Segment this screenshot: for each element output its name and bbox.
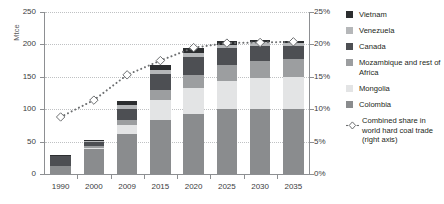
legend-item-label: Vietnam [359,10,387,20]
bar-segment [150,70,171,74]
bar-segment [84,146,105,148]
x-tick [77,175,78,179]
x-tick [177,175,178,179]
diamond-marker-icon [346,116,359,125]
y2-axis-line [309,12,310,175]
bar-segment [283,46,304,59]
legend-item-label: Mozambique and rest of Africa [359,58,442,77]
legend-item-label: Mongolia [359,84,390,94]
legend-item-combined-share[interactable]: Combined share in world hard coal trade … [346,116,442,145]
bar-segment [150,90,171,99]
bar-segment [84,140,105,141]
y-axis-line [44,12,45,175]
y-tick-label: 100 [6,104,36,113]
bar-segment [117,120,138,125]
bar-stack[interactable] [250,40,271,174]
legend-item[interactable]: Mongolia [346,84,442,94]
bar-segment [50,155,71,156]
bar-segment [250,61,271,78]
bar-segment [217,48,238,65]
bar-segment [217,65,238,81]
bar-segment [283,41,304,43]
bar-segment [50,155,71,156]
bar-segment [150,65,171,70]
y2-tick-label: 15% [314,72,346,81]
x-tick [111,175,112,179]
bar-segment [250,78,271,109]
bar-segment [183,57,204,75]
bar-segment [117,134,138,174]
x-tick [144,175,145,179]
bar-segment [84,142,105,146]
bar-segment [183,88,204,114]
bar-stack[interactable] [150,65,171,175]
bar-segment [183,53,204,57]
legend-item[interactable]: Colombia [346,100,442,110]
line-marker [90,96,98,104]
legend-swatch-icon [346,43,353,50]
y-tick-label: 150 [6,72,36,81]
y2-tick-label: 10% [314,104,346,113]
bar-segment [84,148,105,149]
bar-segment [183,114,204,174]
bar-stack[interactable] [283,41,304,174]
legend-swatch-icon [346,85,353,92]
y-tick [40,44,44,45]
bar-segment [117,109,138,121]
bar-segment [117,101,138,105]
legend-item-label: Venezuela [359,26,394,36]
legend: VietnamVenezuelaCanadaMozambique and res… [346,10,442,151]
legend-swatch-icon [346,11,353,18]
line-marker [56,113,64,121]
bar-segment [250,109,271,174]
bar-stack[interactable] [84,140,105,174]
bar-segment [283,109,304,174]
bar-segment [183,75,204,88]
legend-item[interactable]: Vietnam [346,10,442,20]
bar-segment [283,59,304,77]
bar-segment [117,125,138,135]
legend-item[interactable]: Canada [346,42,442,52]
bar-segment [283,77,304,109]
x-tick [210,175,211,179]
bar-segment [117,105,138,108]
bar-segment [84,141,105,142]
legend-item-label: Combined share in world hard coal trade … [362,116,442,145]
y-tick [40,12,44,13]
bar-segment [183,48,204,53]
y-tick-label: 50 [6,137,36,146]
bar-segment [150,74,171,91]
bar-stack[interactable] [50,155,71,174]
bar-segment [250,42,271,45]
y2-tick-label: 5% [314,137,346,146]
chart-container: Mtce 050100150200250 0%5%10%15%20%25% 19… [0,0,444,204]
bar-segment [217,109,238,174]
legend-item-label: Canada [359,42,386,52]
legend-swatch-icon [346,59,353,66]
x-tick [277,175,278,179]
y-tick [40,109,44,110]
x-tick-label: 2035 [273,182,313,191]
y-tick-label: 250 [6,7,36,16]
bar-stack[interactable] [117,101,138,174]
y-tick [40,174,44,175]
bar-segment [217,41,238,45]
bar-segment [150,120,171,174]
bar-segment [217,45,238,48]
bar-stack[interactable] [183,48,204,174]
bar-segment [50,156,71,166]
bar-segment [250,40,271,43]
legend-item-label: Colombia [359,100,391,110]
y2-tick-label: 25% [314,7,346,16]
y-tick [40,77,44,78]
gridline [45,12,309,13]
legend-swatch-icon [346,101,353,108]
y-tick [40,142,44,143]
y-tick-label: 0 [6,169,36,178]
bar-segment [150,100,171,121]
legend-item[interactable]: Mozambique and rest of Africa [346,58,442,77]
bar-segment [50,166,71,174]
bar-segment [217,81,238,110]
legend-item[interactable]: Venezuela [346,26,442,36]
bar-stack[interactable] [217,41,238,174]
